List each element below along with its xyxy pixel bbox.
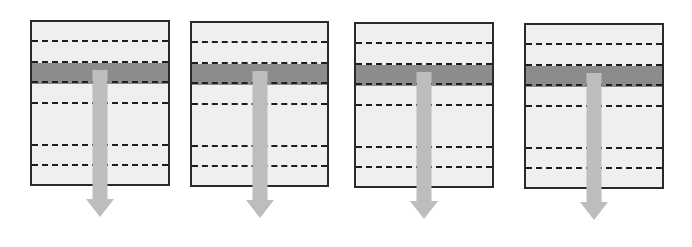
down-arrow-icon: [580, 73, 608, 220]
dashed-line: [526, 64, 662, 66]
dashed-line: [356, 42, 492, 44]
dashed-line: [356, 63, 492, 65]
down-arrow-icon: [86, 70, 114, 217]
dashed-line: [192, 62, 327, 64]
dashed-line: [192, 41, 327, 43]
dashed-line: [32, 40, 168, 42]
down-arrow-icon: [410, 72, 438, 219]
down-arrow-icon: [246, 71, 274, 218]
dashed-line: [32, 61, 168, 63]
dashed-line: [526, 43, 662, 45]
